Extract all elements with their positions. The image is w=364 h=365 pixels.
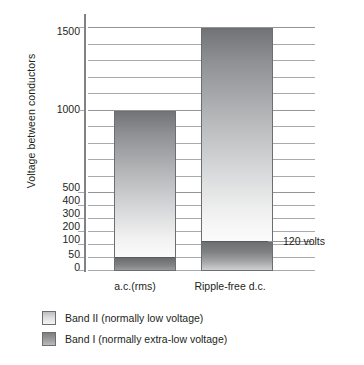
y-tick-label-100: 100 xyxy=(38,234,80,245)
bar-ac-rms[interactable] xyxy=(114,111,176,272)
bar-ac-rms-band2 xyxy=(115,111,175,258)
annotation-120-volts: 120 volts xyxy=(283,235,325,247)
y-tick-label-500: 500 xyxy=(38,182,80,193)
legend-swatch-band-1-icon xyxy=(42,332,56,346)
y-tick-label-1000: 1000 xyxy=(38,104,80,115)
bar-chart: Voltage between conductors 1500100050040… xyxy=(0,0,364,365)
y-tick-label-400: 400 xyxy=(38,195,80,206)
x-category-label-1: Ripple-free d.c. xyxy=(182,280,278,292)
legend: Band II (normally low voltage) Band I (n… xyxy=(42,307,342,349)
legend-item-band-1[interactable]: Band I (normally extra-low voltage) xyxy=(42,328,342,349)
y-tick-label-50: 50 xyxy=(38,249,80,260)
bar-ripple-free-dc-band1 xyxy=(202,241,272,270)
legend-item-band-2[interactable]: Band II (normally low voltage) xyxy=(42,307,342,328)
plot-area xyxy=(88,22,268,271)
legend-label-band-1: Band I (normally extra-low voltage) xyxy=(65,333,227,345)
y-tick-label-200: 200 xyxy=(38,221,80,232)
legend-label-band-2: Band II (normally low voltage) xyxy=(65,312,203,324)
bar-ripple-free-dc[interactable] xyxy=(201,28,273,271)
legend-swatch-band-2-icon xyxy=(42,311,56,325)
bar-ac-rms-band1 xyxy=(115,257,175,270)
x-category-label-0: a.c.(rms) xyxy=(96,280,174,292)
y-tick-label-1500: 1500 xyxy=(38,26,80,37)
y-tick-label-0: 0 xyxy=(38,262,80,273)
bar-ripple-free-dc-band2 xyxy=(202,28,272,241)
y-tick-label-300: 300 xyxy=(38,208,80,219)
y-axis-spine xyxy=(84,14,86,272)
